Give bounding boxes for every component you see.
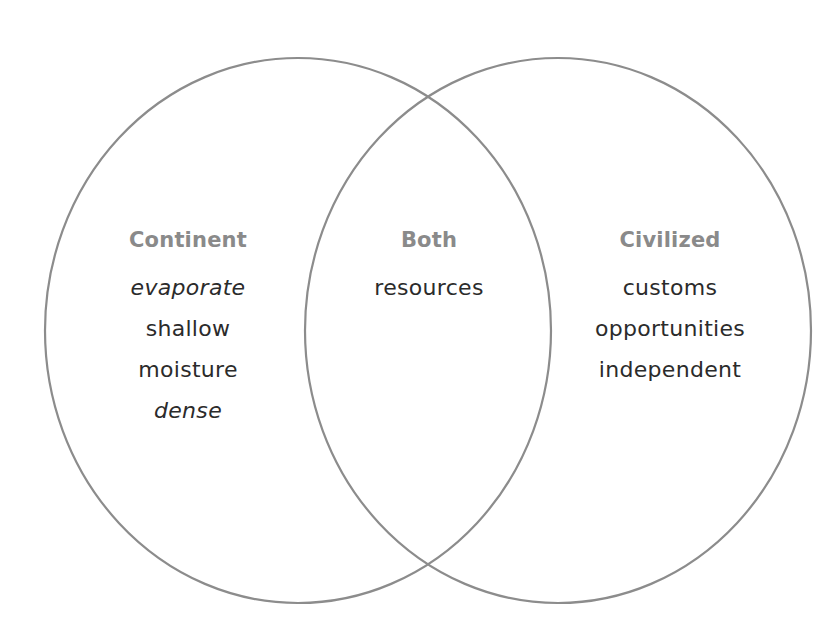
right-region: Civilized customs opportunities independ… [595, 226, 745, 390]
left-region-item: moisture [129, 349, 247, 390]
intersection-region-title: Both [374, 226, 483, 267]
right-region-item: independent [595, 349, 745, 390]
left-region-item: evaporate [129, 267, 247, 308]
intersection-region-item: resources [374, 267, 483, 308]
right-region-title: Civilized [595, 226, 745, 267]
venn-diagram: Continent evaporate shallow moisture den… [0, 0, 832, 637]
left-region-item: shallow [129, 308, 247, 349]
left-region: Continent evaporate shallow moisture den… [129, 226, 247, 431]
right-region-item: opportunities [595, 308, 745, 349]
left-circle [45, 58, 551, 603]
left-region-item: dense [129, 390, 247, 431]
intersection-region: Both resources [374, 226, 483, 308]
right-region-item: customs [595, 267, 745, 308]
left-region-title: Continent [129, 226, 247, 267]
